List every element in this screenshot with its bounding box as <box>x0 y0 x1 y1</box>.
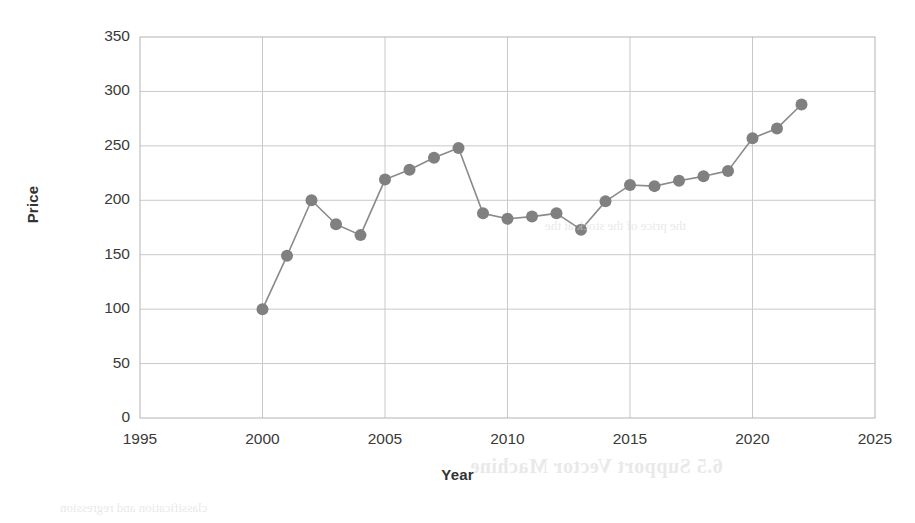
x-axis-title: Year <box>0 466 915 483</box>
data-point-marker <box>649 180 661 192</box>
data-point-marker <box>428 152 440 164</box>
x-tick-label: 2015 <box>595 430 665 448</box>
data-point-marker <box>379 174 391 186</box>
x-tick-label: 2010 <box>473 430 543 448</box>
y-tick-label: 0 <box>66 408 130 426</box>
x-tick-label: 2000 <box>228 430 298 448</box>
x-tick-label: 2025 <box>840 430 910 448</box>
data-point-marker <box>355 229 367 241</box>
data-point-marker <box>526 211 538 223</box>
data-point-marker <box>575 224 587 236</box>
data-point-marker <box>404 164 416 176</box>
data-point-marker <box>624 179 636 191</box>
y-tick-label: 350 <box>66 27 130 45</box>
grid-lines <box>140 37 875 418</box>
y-tick-label: 150 <box>66 245 130 263</box>
data-point-marker <box>502 213 514 225</box>
data-point-marker <box>330 218 342 230</box>
y-tick-label: 250 <box>66 136 130 154</box>
data-point-marker <box>747 132 759 144</box>
data-series-price <box>257 98 808 315</box>
data-point-marker <box>453 142 465 154</box>
x-tick-label: 1995 <box>105 430 175 448</box>
line-chart-figure: 6.5 Support Vector Machine the price of … <box>0 0 915 523</box>
y-tick-label: 200 <box>66 190 130 208</box>
data-point-marker <box>698 170 710 182</box>
data-point-marker <box>551 207 563 219</box>
y-tick-label: 300 <box>66 81 130 99</box>
y-tick-label: 50 <box>66 354 130 372</box>
x-tick-label: 2005 <box>350 430 420 448</box>
data-point-marker <box>600 195 612 207</box>
data-point-marker <box>257 303 269 315</box>
y-tick-label: 100 <box>66 299 130 317</box>
data-point-marker <box>281 250 293 262</box>
y-axis-title: Price <box>24 165 41 245</box>
data-point-marker <box>477 207 489 219</box>
x-tick-label: 2020 <box>718 430 788 448</box>
data-point-marker <box>771 122 783 134</box>
data-point-marker <box>796 98 808 110</box>
data-point-marker <box>722 165 734 177</box>
data-point-marker <box>673 175 685 187</box>
data-point-marker <box>306 194 318 206</box>
